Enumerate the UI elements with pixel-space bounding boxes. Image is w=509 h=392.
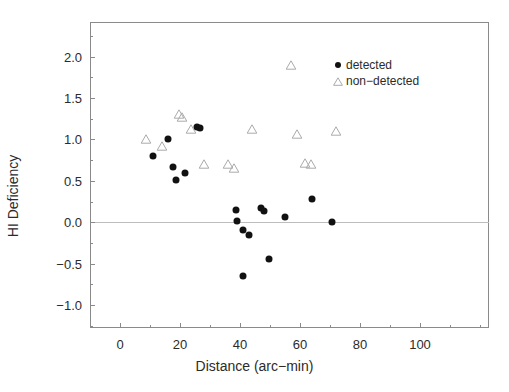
x-tick-minor	[330, 325, 331, 328]
data-point-detected	[169, 163, 176, 170]
legend-item: non−detected	[330, 73, 419, 89]
data-point-detected	[282, 214, 289, 221]
plot-area	[90, 22, 489, 328]
data-point-detected	[196, 124, 203, 131]
data-point-detected	[150, 153, 157, 160]
data-point-non-detected	[229, 163, 240, 173]
y-tick-major	[90, 139, 95, 140]
y-tick-minor	[90, 326, 93, 327]
data-point-non-detected	[176, 112, 187, 122]
x-axis-title: Distance (arc−min)	[0, 358, 509, 374]
data-point-non-detected	[286, 60, 297, 70]
x-tick-minor	[480, 325, 481, 328]
y-tick-label: −1.0	[38, 297, 82, 312]
y-axis-title: HI Deficiency	[0, 0, 28, 392]
legend-label: detected	[346, 58, 392, 72]
y-tick-minor	[90, 284, 93, 285]
y-tick-major	[90, 181, 95, 182]
x-tick-minor	[450, 325, 451, 328]
x-tick-major	[120, 323, 121, 328]
y-tick-label: 2.0	[38, 49, 82, 64]
y-axis-title-text: HI Deficiency	[5, 155, 21, 237]
y-tick-label: 1.5	[38, 91, 82, 106]
x-tick-label: 20	[173, 337, 187, 352]
x-tick-major	[240, 323, 241, 328]
y-tick-major	[90, 222, 95, 223]
x-tick-minor	[210, 325, 211, 328]
legend-label: non−detected	[346, 74, 419, 88]
data-point-detected	[240, 272, 247, 279]
data-point-detected	[328, 219, 335, 226]
data-point-detected	[234, 218, 241, 225]
x-tick-major	[300, 323, 301, 328]
x-tick-minor	[390, 325, 391, 328]
y-tick-major	[90, 57, 95, 58]
y-tick-label: 0.0	[38, 215, 82, 230]
y-tick-major	[90, 264, 95, 265]
x-tick-label: 0	[116, 337, 123, 352]
data-point-detected	[265, 255, 272, 262]
data-point-non-detected	[199, 159, 210, 169]
x-axis-title-text: Distance (arc−min)	[196, 358, 314, 374]
y-tick-minor	[90, 160, 93, 161]
y-tick-minor	[90, 77, 93, 78]
y-tick-minor	[90, 36, 93, 37]
data-point-detected	[246, 231, 253, 238]
zero-reference-line	[90, 222, 489, 223]
x-tick-minor	[150, 325, 151, 328]
data-point-detected	[261, 207, 268, 214]
chart-page: HI Deficiency 020406080100 −1.0−0.50.00.…	[0, 0, 509, 392]
y-tick-label: −0.5	[38, 256, 82, 271]
data-point-non-detected	[331, 126, 342, 136]
data-point-non-detected	[292, 129, 303, 139]
data-point-non-detected	[157, 141, 168, 151]
x-tick-label: 100	[409, 337, 431, 352]
x-tick-label: 40	[233, 337, 247, 352]
y-tick-minor	[90, 243, 93, 244]
y-tick-major	[90, 305, 95, 306]
x-tick-label: 60	[293, 337, 307, 352]
data-point-detected	[232, 206, 239, 213]
legend: detectednon−detected	[330, 57, 419, 89]
x-tick-major	[420, 323, 421, 328]
y-tick-major	[90, 98, 95, 99]
data-point-non-detected	[305, 159, 316, 169]
data-point-detected	[172, 177, 179, 184]
data-point-detected	[181, 170, 188, 177]
data-point-non-detected	[185, 124, 196, 134]
y-tick-minor	[90, 202, 93, 203]
legend-item: detected	[330, 57, 419, 73]
data-point-non-detected	[140, 134, 151, 144]
data-point-detected	[309, 196, 316, 203]
y-tick-minor	[90, 119, 93, 120]
x-tick-major	[360, 323, 361, 328]
y-tick-label: 0.5	[38, 173, 82, 188]
x-tick-label: 80	[353, 337, 367, 352]
x-tick-minor	[270, 325, 271, 328]
x-tick-major	[180, 323, 181, 328]
data-point-non-detected	[247, 124, 258, 134]
legend-filled-circle-icon	[330, 62, 346, 68]
legend-open-triangle-icon	[330, 77, 346, 86]
y-tick-label: 1.0	[38, 132, 82, 147]
